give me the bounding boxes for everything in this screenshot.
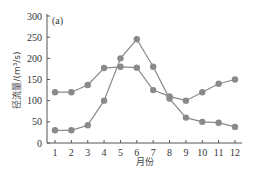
data-point bbox=[199, 119, 205, 125]
data-point bbox=[183, 97, 189, 103]
x-tick-label: 2 bbox=[69, 147, 74, 158]
data-point bbox=[199, 89, 205, 95]
line-chart: 050100150200250300123456789101112 (a) 月份… bbox=[0, 0, 256, 175]
data-point bbox=[150, 64, 156, 70]
data-point bbox=[166, 93, 172, 99]
data-point bbox=[150, 87, 156, 93]
y-tick-label: 300 bbox=[27, 11, 42, 22]
data-point bbox=[101, 65, 107, 71]
x-tick-label: 11 bbox=[214, 147, 224, 158]
x-tick-label: 8 bbox=[167, 147, 172, 158]
y-tick-label: 0 bbox=[37, 138, 42, 149]
data-point bbox=[134, 36, 140, 42]
y-tick-label: 250 bbox=[27, 32, 42, 43]
x-tick-label: 1 bbox=[53, 147, 58, 158]
panel-label: (a) bbox=[52, 15, 63, 27]
data-point bbox=[85, 82, 91, 88]
data-point bbox=[101, 97, 107, 103]
data-point bbox=[232, 124, 238, 130]
x-tick-label: 5 bbox=[118, 147, 123, 158]
data-point bbox=[52, 127, 58, 133]
y-tick-label: 200 bbox=[27, 53, 42, 64]
x-tick-label: 3 bbox=[85, 147, 90, 158]
x-tick-label: 4 bbox=[102, 147, 107, 158]
x-tick-label: 10 bbox=[197, 147, 207, 158]
y-tick-label: 100 bbox=[27, 95, 42, 106]
line-series-1 bbox=[52, 36, 238, 133]
data-point bbox=[183, 114, 189, 120]
x-tick-label: 12 bbox=[230, 147, 240, 158]
data-point bbox=[117, 55, 123, 61]
y-tick-label: 50 bbox=[32, 116, 42, 127]
series-group bbox=[52, 36, 238, 133]
data-point bbox=[68, 89, 74, 95]
line-series-2 bbox=[52, 64, 238, 104]
data-point bbox=[68, 127, 74, 133]
data-point bbox=[215, 119, 221, 125]
data-point bbox=[215, 81, 221, 87]
x-tick-label: 9 bbox=[183, 147, 188, 158]
y-axis-title: 径流量/(m³/s) bbox=[11, 51, 22, 108]
y-tick-label: 150 bbox=[27, 74, 42, 85]
axes: 050100150200250300123456789101112 bbox=[27, 11, 242, 159]
data-point bbox=[134, 64, 140, 70]
x-axis-title: 月份 bbox=[136, 156, 154, 167]
data-point bbox=[85, 122, 91, 128]
data-point bbox=[117, 64, 123, 70]
data-point bbox=[52, 89, 58, 95]
data-point bbox=[232, 76, 238, 82]
